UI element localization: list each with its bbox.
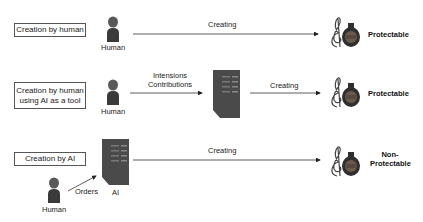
music-work-icon (327, 144, 363, 178)
creating-label: Creating (270, 81, 298, 90)
category-label: Creation by human (16, 25, 84, 35)
result-protectable: Protectable (368, 30, 409, 39)
result-line2: Protectable (370, 159, 410, 168)
category-label-line2: using AI as a tool (20, 96, 81, 106)
human-label: Human (42, 205, 66, 214)
category-label: Creation by AI (25, 154, 75, 164)
human-icon (47, 177, 61, 203)
intentions-text: Intensions (140, 71, 200, 80)
contributions-text: Contributions (140, 80, 200, 89)
category-box-creation-by-human-using-ai: Creation by human using AI as a tool (14, 82, 86, 109)
category-label-line1: Creation by human (16, 86, 84, 96)
ai-server-icon (99, 139, 131, 185)
creating-label: Creating (208, 20, 236, 29)
creating-label: Creating (208, 146, 236, 155)
music-work-icon (327, 75, 363, 109)
result-non-protectable: Non- Protectable (370, 150, 410, 168)
result-line1: Non- (370, 150, 410, 159)
result-protectable: Protectable (368, 89, 409, 98)
human-icon (106, 79, 120, 105)
human-label: Human (101, 43, 125, 52)
intentions-contributions-label: Intensions Contributions (140, 71, 200, 89)
ai-label: AI (112, 188, 119, 197)
human-icon (106, 16, 120, 42)
music-work-icon (327, 15, 363, 49)
category-box-creation-by-human: Creation by human (14, 23, 86, 37)
orders-label: Orders (75, 187, 98, 196)
category-box-creation-by-ai: Creation by AI (14, 152, 86, 166)
human-label: Human (101, 107, 125, 116)
ai-server-icon (210, 70, 242, 118)
